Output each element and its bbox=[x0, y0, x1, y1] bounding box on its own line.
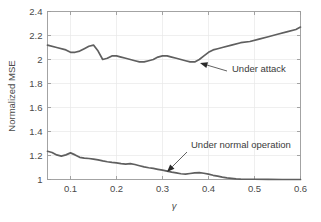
chart-plot-area: 11.21.41.61.822.22.40.10.20.30.40.50.6 U… bbox=[0, 0, 321, 222]
annotation-leader-line bbox=[207, 65, 227, 71]
y-tick-label: 2.2 bbox=[29, 30, 42, 41]
annotation-label: Under normal operation bbox=[191, 139, 291, 150]
y-tick-label: 1 bbox=[37, 174, 42, 185]
axis-frame bbox=[48, 12, 301, 180]
y-tick-label: 1.4 bbox=[29, 126, 42, 137]
x-tick-label: 0.6 bbox=[294, 183, 307, 194]
gridlines bbox=[48, 12, 301, 180]
y-tick-label: 2 bbox=[37, 54, 42, 65]
y-tick-label: 1.8 bbox=[29, 78, 42, 89]
x-axis-title: γ bbox=[172, 200, 178, 211]
annotation-label: Under attack bbox=[232, 63, 286, 74]
x-tick-label: 0.5 bbox=[248, 183, 261, 194]
x-tick-label: 0.1 bbox=[64, 183, 77, 194]
tick-marks bbox=[48, 12, 301, 180]
y-tick-label: 2.4 bbox=[29, 6, 42, 17]
annotation-arrowhead bbox=[200, 62, 208, 68]
chart-figure: 11.21.41.61.822.22.40.10.20.30.40.50.6 U… bbox=[0, 0, 321, 222]
y-tick-label: 1.6 bbox=[29, 102, 42, 113]
data-series-group bbox=[48, 27, 301, 179]
tick-label-group: 11.21.41.61.822.22.40.10.20.30.40.50.6 bbox=[29, 6, 307, 194]
x-tick-label: 0.2 bbox=[110, 183, 123, 194]
x-tick-label: 0.3 bbox=[156, 183, 169, 194]
annotation-leader-line bbox=[172, 152, 187, 167]
series-line-under-attack bbox=[48, 27, 301, 62]
y-axis-title: Normalized MSE bbox=[6, 60, 17, 131]
y-tick-label: 1.2 bbox=[29, 150, 42, 161]
x-tick-label: 0.4 bbox=[202, 183, 215, 194]
